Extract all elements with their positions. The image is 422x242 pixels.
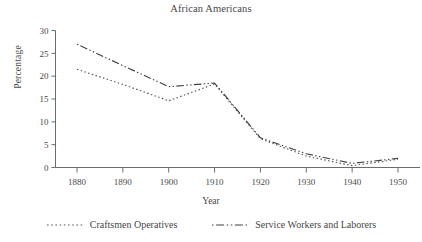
series-line-craftsmen-operatives [77, 69, 398, 165]
svg-text:25: 25 [40, 49, 50, 59]
chart-legend: Craftsmen Operatives Service Workers and… [0, 219, 422, 230]
x-axis-label: Year [0, 196, 422, 206]
svg-text:5: 5 [44, 140, 49, 150]
svg-text:1890: 1890 [114, 177, 133, 187]
series-line-service-workers-and-laborers [77, 44, 398, 163]
data-series [77, 44, 398, 165]
svg-text:10: 10 [40, 117, 50, 127]
svg-text:1930: 1930 [297, 177, 316, 187]
svg-text:15: 15 [40, 94, 50, 104]
axis-ticks [52, 31, 399, 173]
legend-swatch-dotted-icon [46, 221, 84, 229]
svg-text:1940: 1940 [343, 177, 362, 187]
legend-item-craftsmen-operatives: Craftsmen Operatives [46, 219, 177, 230]
chart-figure: African Americans Percentage 05101520253… [0, 0, 422, 242]
svg-text:1950: 1950 [389, 177, 408, 187]
svg-text:1900: 1900 [160, 177, 179, 187]
svg-text:1880: 1880 [68, 177, 87, 187]
axis-tick-labels: 0510152025301880189019001910192019301940… [40, 26, 408, 187]
svg-text:30: 30 [40, 26, 50, 36]
svg-text:20: 20 [40, 71, 50, 81]
axes [56, 31, 421, 168]
legend-swatch-dashdot-icon [211, 221, 249, 229]
legend-label-service-workers-and-laborers: Service Workers and Laborers [255, 219, 376, 230]
svg-text:1910: 1910 [206, 177, 225, 187]
svg-text:1920: 1920 [251, 177, 270, 187]
legend-label-craftsmen-operatives: Craftsmen Operatives [90, 219, 177, 230]
legend-item-service-workers-and-laborers: Service Workers and Laborers [211, 219, 376, 230]
svg-text:0: 0 [44, 163, 49, 173]
